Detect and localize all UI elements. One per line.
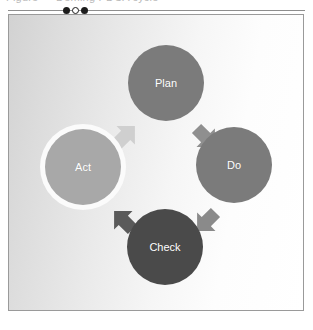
divider-dot-filled-left [63, 7, 70, 14]
divider-dot-filled-right [81, 7, 88, 14]
diagram-frame: PlanDoCheckAct [8, 14, 304, 311]
node-circle-check[interactable] [127, 209, 203, 285]
divider-line [8, 10, 305, 11]
node-circle-plan[interactable] [128, 45, 204, 121]
pdca-cycle-diagram [9, 15, 303, 310]
divider-dot-hollow-mid [72, 7, 79, 14]
clipped-header-text: Figure — Deming PDCA cycle [6, 0, 306, 4]
node-circle-act[interactable] [45, 129, 121, 205]
node-circle-do[interactable] [196, 127, 272, 203]
